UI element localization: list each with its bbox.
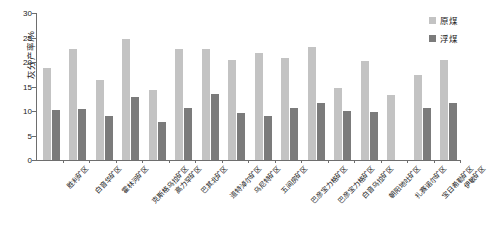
- float-coal-swatch-icon: [429, 35, 436, 42]
- bar-raw-coal: [255, 53, 263, 160]
- bar-float-coal: [237, 113, 245, 160]
- bar-float-coal: [264, 116, 272, 160]
- bar-raw-coal: [414, 75, 422, 160]
- bar-raw-coal: [43, 68, 51, 160]
- bar-raw-coal: [387, 95, 395, 160]
- x-tick-label: 霍林河矿区: [119, 163, 150, 195]
- bar-float-coal: [423, 108, 431, 160]
- x-tick-label: 五间房矿区: [278, 163, 309, 195]
- x-tick: [354, 160, 355, 163]
- x-tick-label: 巴其北矿区: [198, 163, 229, 195]
- y-tick-20: [32, 62, 36, 63]
- bar-raw-coal: [122, 39, 130, 160]
- legend-item-raw-coal: 原煤: [429, 14, 458, 26]
- bar-float-coal: [184, 108, 192, 160]
- y-tick-label-10: 10: [8, 107, 32, 116]
- bar-raw-coal: [308, 47, 316, 160]
- bar-float-coal: [78, 109, 86, 160]
- x-tick: [434, 160, 435, 163]
- bar-raw-coal: [202, 49, 210, 160]
- y-tick-label-20: 20: [8, 58, 32, 67]
- x-tick: [89, 160, 90, 163]
- y-tick-label-15: 15: [8, 82, 32, 91]
- chart-legend: 原煤 浮煤: [429, 14, 458, 50]
- bar-float-coal: [449, 103, 457, 160]
- y-tick-10: [32, 111, 36, 112]
- x-tick-label: 白音华矿区: [92, 163, 123, 195]
- x-tick: [407, 160, 408, 163]
- legend-label-float-coal: 浮煤: [440, 32, 458, 44]
- y-tick-30: [32, 13, 36, 14]
- y-tick-5: [32, 136, 36, 137]
- bar-raw-coal: [228, 60, 236, 160]
- bar-float-coal: [370, 112, 378, 160]
- x-tick: [381, 160, 382, 163]
- bar-raw-coal: [96, 80, 104, 160]
- y-tick-25: [32, 38, 36, 39]
- legend-item-float-coal: 浮煤: [429, 32, 458, 44]
- x-tick: [169, 160, 170, 163]
- bar-raw-coal: [281, 58, 289, 160]
- plot-area: 051015202530: [36, 13, 460, 160]
- bar-float-coal: [105, 116, 113, 160]
- raw-coal-swatch-icon: [429, 17, 436, 24]
- x-tick: [248, 160, 249, 163]
- y-tick-label-0: 0: [8, 156, 32, 165]
- x-tick: [460, 160, 461, 163]
- y-tick-15: [32, 87, 36, 88]
- bar-float-coal: [290, 108, 298, 160]
- y-tick-label-25: 25: [8, 33, 32, 42]
- bar-float-coal: [317, 103, 325, 160]
- bar-raw-coal: [440, 60, 448, 160]
- bar-raw-coal: [149, 90, 157, 160]
- y-axis-line: [36, 13, 37, 160]
- bar-raw-coal: [361, 61, 369, 160]
- y-tick-label-30: 30: [8, 9, 32, 18]
- bar-raw-coal: [69, 49, 77, 160]
- y-tick-0: [32, 160, 36, 161]
- bar-float-coal: [211, 94, 219, 160]
- bar-raw-coal: [334, 88, 342, 160]
- x-tick-label: 胜利矿区: [64, 163, 90, 190]
- bar-raw-coal: [175, 49, 183, 160]
- legend-label-raw-coal: 原煤: [440, 14, 458, 26]
- x-tick: [328, 160, 329, 163]
- y-tick-label-5: 5: [8, 131, 32, 140]
- bar-float-coal: [52, 110, 60, 160]
- bar-float-coal: [343, 111, 351, 160]
- x-tick: [63, 160, 64, 163]
- bar-float-coal: [131, 97, 139, 160]
- bar-float-coal: [158, 122, 166, 160]
